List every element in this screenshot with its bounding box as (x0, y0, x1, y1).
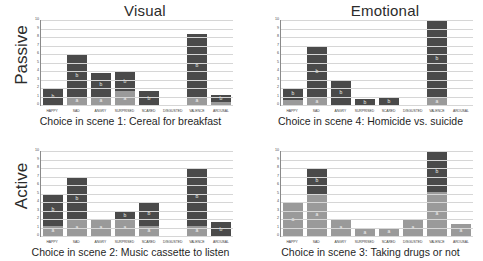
bar-segment-a: a (115, 91, 135, 105)
y-axis-tick-label: 10 (35, 149, 39, 153)
y-axis-tick-label: 9 (37, 158, 39, 162)
y-axis-tick-label: 3 (277, 78, 279, 82)
bar-segment-label: b (388, 99, 391, 104)
bar-segment-b: b (211, 222, 231, 236)
gridline (41, 151, 233, 152)
x-axis-tick-label: SCARED (378, 107, 398, 115)
y-axis-tick-label: 10 (35, 18, 39, 22)
y-axis-tick-label: 3 (37, 209, 39, 213)
y-axis-tick-label: 8 (277, 166, 279, 170)
bar-segment-b: b (427, 20, 447, 97)
y-axis-tick-label: 0 (37, 234, 39, 238)
bar-segment-label: b (100, 82, 103, 87)
gridline (41, 54, 233, 55)
y-axis-tick-label: 0 (277, 234, 279, 238)
bar-segment-b: b (139, 202, 159, 226)
x-axis-tick-label: DISGUSTED (402, 238, 422, 246)
gridline (281, 151, 473, 152)
x-axis-tick-label: HAPPY (42, 107, 62, 115)
bar-segment-label: a (100, 98, 103, 103)
gridline (41, 88, 233, 89)
bar-segment-label: a (196, 228, 199, 233)
bar-segment-label: b (148, 211, 151, 216)
gridline (41, 219, 233, 220)
y-axis-tick-label: 0 (277, 103, 279, 107)
y-axis-tick-label: 8 (277, 35, 279, 39)
plot-area: abaaaaabaa 012345678910 (280, 151, 473, 237)
gridline (281, 211, 473, 212)
bar-segment-label: b (364, 100, 367, 105)
y-axis-tick-label: 6 (37, 183, 39, 187)
bar-segment-a: a (379, 228, 399, 237)
x-axis-tick-label: AROUSAL (211, 238, 231, 246)
bar-segment-b: b (379, 98, 399, 105)
y-axis-tick-label: 7 (277, 44, 279, 48)
gridline (281, 37, 473, 38)
bar-segment-a: a (427, 192, 447, 236)
gridline (281, 71, 473, 72)
y-axis-tick-label: 2 (277, 217, 279, 221)
x-axis-tick-label: SAD (306, 238, 326, 246)
x-axis-tick-label: ANGRY (330, 238, 350, 246)
x-axis-tick-label: ANGRY (90, 107, 110, 115)
y-axis-tick-label: 2 (277, 86, 279, 90)
y-axis-tick-label: 6 (277, 183, 279, 187)
bar-segment-a: a (427, 97, 447, 105)
x-axis-tick-label: SURPRISED (354, 238, 374, 246)
x-axis-labels: HAPPYSADANGRYSURPRISEDSCAREDDISGUSTEDVAL… (40, 107, 233, 115)
plot-area: bbabababbab 012345678910 (40, 20, 233, 106)
y-axis-tick-label: 3 (277, 209, 279, 213)
y-axis-tick-label: 1 (37, 95, 39, 99)
y-axis-tick-label: 4 (37, 200, 39, 204)
gridline (41, 37, 233, 38)
x-axis-tick-label: SAD (306, 107, 326, 115)
bar-segment-b: b (307, 168, 327, 194)
bar-segment-b: b (283, 88, 303, 100)
gridline (41, 194, 233, 195)
x-axis-tick-label: AROUSAL (211, 107, 231, 115)
gridline (281, 177, 473, 178)
gridline (41, 168, 233, 169)
bar-segment-label: b (196, 194, 199, 199)
gridline (41, 63, 233, 64)
x-axis-tick-label: VALENCE (187, 238, 207, 246)
gridline (41, 211, 233, 212)
bar-segment-label: a (316, 212, 319, 217)
bar-segment-b: b (331, 80, 351, 106)
x-axis-tick-label: SCARED (138, 238, 158, 246)
bar-segment-label: a (364, 230, 367, 235)
gridline (281, 46, 473, 47)
x-axis-tick-label: DISGUSTED (402, 107, 422, 115)
y-axis-tick-label: 10 (275, 18, 279, 22)
x-axis-tick-label: SURPRISED (114, 238, 134, 246)
column-title-emotional: Emotional (300, 2, 470, 19)
gridline (281, 160, 473, 161)
gridline (41, 228, 233, 229)
gridline (41, 29, 233, 30)
x-axis-tick-label: ANGRY (330, 107, 350, 115)
y-axis-tick-label: 3 (37, 78, 39, 82)
x-axis-tick-label: HAPPY (282, 107, 302, 115)
gridline (281, 29, 473, 30)
x-axis-tick-label: HAPPY (282, 238, 302, 246)
x-axis-tick-label: DISGUSTED (162, 238, 182, 246)
bar-segment-label: a (148, 228, 151, 233)
x-axis-tick-label: DISGUSTED (162, 107, 182, 115)
y-axis-tick-label: 1 (277, 95, 279, 99)
bar-segment-label: b (340, 90, 343, 95)
gridline (281, 97, 473, 98)
bar-segment-label: a (316, 99, 319, 104)
column-title-visual: Visual (60, 2, 230, 19)
gridline (281, 88, 473, 89)
panel-caption: Choice in scene 4: Homicide vs. suicide (268, 115, 473, 127)
y-axis-tick-label: 4 (37, 69, 39, 73)
y-axis-tick-label: 2 (37, 86, 39, 90)
bar-segment-a: a (307, 98, 327, 105)
gridline (41, 80, 233, 81)
bar-segment-label: a (52, 228, 55, 233)
x-axis-tick-label: SCARED (378, 238, 398, 246)
x-axis-tick-label: VALENCE (187, 107, 207, 115)
y-axis-tick-label: 5 (37, 192, 39, 196)
bar-segment-a: a (91, 97, 111, 106)
